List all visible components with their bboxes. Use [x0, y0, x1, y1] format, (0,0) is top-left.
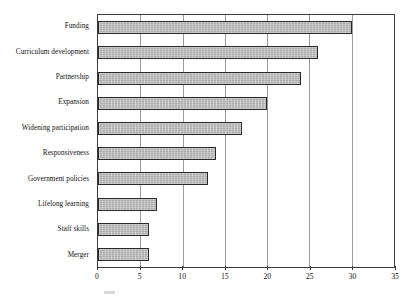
bar-row: [98, 242, 394, 267]
bar-row: [98, 191, 394, 216]
y-axis-label: Expansion: [58, 98, 89, 107]
y-axis-label: Staff skills: [58, 225, 89, 234]
bar-row: [98, 141, 394, 166]
x-tick-mark: [140, 266, 141, 270]
bar: [98, 122, 242, 135]
y-axis-label-cell: Responsiveness: [0, 141, 93, 166]
bar-row: [98, 116, 394, 141]
bar-row: [98, 65, 394, 90]
x-tick-mark: [352, 266, 353, 270]
bar-row: [98, 91, 394, 116]
bar: [98, 72, 301, 85]
y-axis-label: Curriculum development: [16, 48, 89, 57]
y-axis-label-cell: Staff skills: [0, 217, 93, 242]
bars-layer: [98, 15, 394, 267]
y-axis-label-cell: Widening participation: [0, 116, 93, 141]
x-tick-label: 0: [95, 272, 99, 281]
bar-row: [98, 15, 394, 40]
x-tick-mark: [395, 266, 396, 270]
x-tick-mark: [267, 266, 268, 270]
x-tick-label: 10: [178, 272, 186, 281]
y-axis-label-cell: Funding: [0, 14, 93, 39]
y-axis-label-cell: Lifelong learning: [0, 192, 93, 217]
y-axis-label: Funding: [65, 22, 89, 31]
y-axis-label-cell: Partnership: [0, 65, 93, 90]
bar-chart: FundingCurriculum developmentPartnership…: [0, 0, 411, 302]
x-tick-label: 15: [221, 272, 229, 281]
bar: [98, 223, 149, 236]
y-axis-label: Responsiveness: [43, 149, 89, 158]
bar: [98, 147, 216, 160]
x-tick-label: 35: [391, 272, 399, 281]
x-tick-label: 25: [306, 272, 314, 281]
x-tick-mark: [225, 266, 226, 270]
bar-row: [98, 217, 394, 242]
bar-row: [98, 166, 394, 191]
x-tick-mark: [310, 266, 311, 270]
y-axis-label-cell: Government policies: [0, 166, 93, 191]
y-axis-label-cell: Expansion: [0, 90, 93, 115]
bar-row: [98, 40, 394, 65]
y-axis-label: Government policies: [28, 175, 89, 184]
x-tick-label: 30: [349, 272, 357, 281]
y-axis-label: Widening participation: [22, 124, 89, 133]
y-axis-label: Merger: [68, 251, 89, 260]
x-axis: 05101520253035: [97, 270, 395, 284]
y-axis-label-cell: Merger: [0, 243, 93, 268]
scan-artifact: [104, 291, 115, 294]
y-axis-category-labels: FundingCurriculum developmentPartnership…: [0, 14, 93, 268]
bar: [98, 97, 267, 110]
bar: [98, 21, 352, 34]
bar: [98, 172, 208, 185]
bar: [98, 198, 157, 211]
y-axis-label: Partnership: [56, 73, 89, 82]
bar: [98, 46, 318, 59]
y-axis-label: Lifelong learning: [38, 200, 89, 209]
x-tick-mark: [182, 266, 183, 270]
x-tick-label: 5: [138, 272, 142, 281]
bar: [98, 248, 149, 261]
y-axis-label-cell: Curriculum development: [0, 39, 93, 64]
x-tick-label: 20: [263, 272, 271, 281]
x-tick-mark: [97, 266, 98, 270]
plot-area: [97, 14, 395, 268]
